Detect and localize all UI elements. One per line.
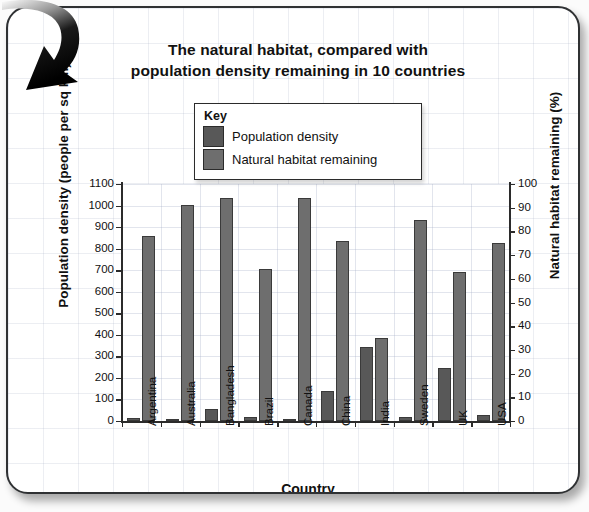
y-axis-left [121, 182, 123, 423]
y-axis-right-tick [510, 184, 515, 185]
x-axis-tick [471, 421, 472, 427]
y-axis-right-tick-label: 50 [518, 296, 531, 308]
x-axis-label-usa: USA [496, 402, 508, 426]
y-axis-right-tick [510, 255, 515, 256]
y-axis-right-tick-label: 60 [518, 272, 531, 284]
y-axis-right-tick [510, 397, 515, 398]
y-axis-left-tick [116, 421, 121, 422]
chart-title-line-2: population density remaining in 10 count… [88, 61, 508, 82]
y-axis-right-tick [510, 303, 515, 304]
y-axis-right-tick [510, 326, 515, 327]
gridline-vertical [238, 184, 239, 421]
gridline-vertical [432, 184, 433, 421]
y-axis-right-tick [510, 279, 515, 280]
y-axis-right-tick-label: 80 [518, 224, 531, 236]
bar-population-density [205, 409, 218, 421]
y-axis-left-tick [116, 184, 121, 185]
gridline-vertical [394, 184, 395, 421]
bar-natural-habitat [453, 272, 466, 421]
gridline-vertical [161, 184, 162, 421]
y-axis-left-tick [116, 249, 121, 250]
x-axis-tick [394, 421, 395, 427]
gridline-vertical [471, 184, 472, 421]
x-axis-tick [510, 421, 511, 427]
y-axis-left-tick-label: 200 [95, 371, 114, 383]
gridline-vertical [316, 184, 317, 421]
y-axis-right-tick-label: 70 [518, 248, 531, 260]
legend-item-population-density: Population density [203, 126, 413, 147]
y-axis-left-tick [116, 378, 121, 379]
x-axis-label-sweden: Sweden [418, 384, 430, 426]
x-axis-label-china: China [340, 396, 352, 426]
y-axis-right-tick [510, 350, 515, 351]
y-axis-left-tick [116, 356, 121, 357]
legend-item-natural-habitat: Natural habitat remaining [203, 149, 413, 170]
curved-arrow-down-left-icon [0, 0, 126, 100]
x-axis-label-argentina: Argentina [146, 377, 158, 426]
y-axis-left-tick [116, 227, 121, 228]
bar-natural-habitat [492, 243, 505, 421]
y-axis-left-tick-label: 800 [95, 242, 114, 254]
y-axis-left-tick-label: 1000 [88, 199, 114, 211]
bar-natural-habitat [336, 241, 349, 421]
legend-key-box: Key Population density Natural habitat r… [194, 103, 422, 180]
y-axis-right-title: Natural habitat remaining (%) [547, 61, 562, 311]
screenshot-root: 010020030040050060070080090010001100 010… [0, 0, 589, 512]
y-axis-left-tick [116, 206, 121, 207]
y-axis-right-tick-label: 40 [518, 319, 531, 331]
y-axis-right-tick [510, 374, 515, 375]
y-axis-right-tick-label: 0 [518, 414, 524, 426]
y-axis-left-tick-label: 100 [95, 392, 114, 404]
y-axis-right-tick-label: 20 [518, 367, 531, 379]
y-axis-left-tick-label: 500 [95, 306, 114, 318]
legend-swatch-natural-habitat [203, 149, 224, 170]
legend-label-natural-habitat: Natural habitat remaining [232, 152, 377, 167]
x-axis-label-canada: Canada [302, 386, 314, 426]
y-axis-left-tick [116, 313, 121, 314]
y-axis-left-tick [116, 399, 121, 400]
x-axis-label-uk: UK [457, 410, 469, 426]
bar-population-density [438, 368, 451, 421]
bar-population-density [321, 391, 334, 421]
y-axis-left-tick-label: 400 [95, 328, 114, 340]
y-axis-left-tick-label: 300 [95, 349, 114, 361]
legend-title: Key [204, 109, 413, 123]
x-axis-tick [316, 421, 317, 427]
x-axis-tick [238, 421, 239, 427]
gridline-vertical [277, 184, 278, 421]
y-axis-right-tick [510, 208, 515, 209]
y-axis-left-tick [116, 292, 121, 293]
bar-population-density [360, 347, 373, 421]
chart-title-line-1: The natural habitat, compared with [88, 40, 508, 61]
y-axis-left-tick-label: 900 [95, 220, 114, 232]
x-axis-tick [161, 421, 162, 427]
y-axis-left-tick [116, 270, 121, 271]
x-axis-tick [277, 421, 278, 427]
x-axis-label-india: India [379, 401, 391, 426]
gridline-vertical [200, 184, 201, 421]
y-axis-right-tick-label: 30 [518, 343, 531, 355]
x-axis-tick [200, 421, 201, 427]
y-axis-left-tick-label: 600 [95, 285, 114, 297]
chart-title: The natural habitat, compared with popul… [88, 40, 508, 82]
y-axis-left-tick-label: 0 [108, 414, 114, 426]
x-axis-tick [432, 421, 433, 427]
x-axis-label-bangladesh: Bangladesh [224, 365, 236, 426]
legend-swatch-population-density [203, 126, 224, 147]
y-axis-right-tick-label: 10 [518, 390, 531, 402]
gridline-vertical [355, 184, 356, 421]
y-axis-right-tick-label: 100 [518, 177, 537, 189]
x-axis-label-australia: Australia [185, 381, 197, 426]
x-axis-title: Country [188, 481, 428, 494]
x-axis-tick [122, 421, 123, 427]
y-axis-left-tick [116, 335, 121, 336]
plot-area [122, 184, 510, 421]
x-axis-label-brazil: Brazil [263, 397, 275, 426]
y-axis-right-tick [510, 231, 515, 232]
y-axis-left-tick-label: 1100 [89, 177, 114, 189]
y-axis-right-tick-label: 90 [518, 201, 531, 213]
y-axis-left-tick-label: 700 [95, 263, 114, 275]
legend-label-population-density: Population density [232, 129, 338, 144]
x-axis-tick [355, 421, 356, 427]
